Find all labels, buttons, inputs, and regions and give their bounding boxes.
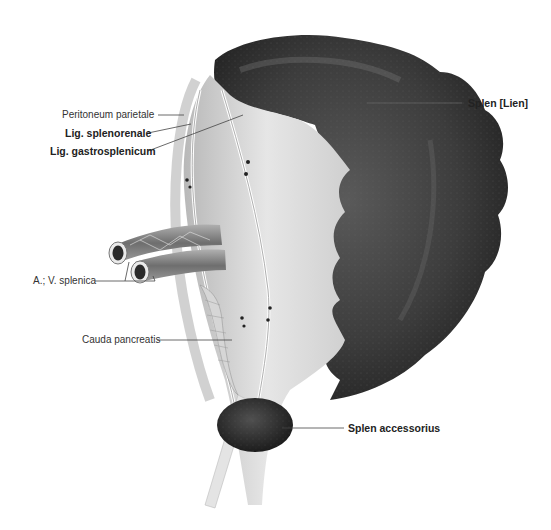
accessory-spleen — [217, 398, 293, 452]
anatomy-figure: Peritoneum parietale Lig. splenorenale L… — [0, 0, 551, 530]
label-splen-lien: Splen [Lien] — [468, 97, 528, 109]
label-lig-splenorenale: Lig. splenorenale — [65, 127, 151, 139]
label-peritoneum-parietale: Peritoneum parietale — [62, 109, 154, 121]
label-a-v-splenica: A.; V. splenica — [33, 275, 96, 287]
label-cauda-pancreatis: Cauda pancreatis — [82, 334, 160, 346]
spleen-illustration — [0, 0, 551, 530]
label-lig-gastrosplenicum: Lig. gastrosplenicum — [50, 145, 156, 157]
label-splen-accessorius: Splen accessorius — [348, 422, 440, 434]
